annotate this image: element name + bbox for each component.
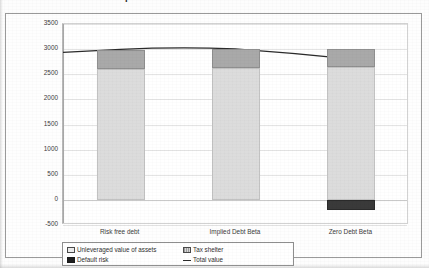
legend-label: Total value (193, 256, 223, 263)
gridline-3500 (63, 24, 407, 25)
y-tick-label-1500: 1500 (6, 120, 63, 127)
page-left-edge-shadow (0, 0, 3, 268)
x-tick-label-1: Implied Debt Beta (185, 228, 285, 235)
y-tick-label-500: 500 (6, 170, 63, 177)
chart-legend: Unleveraged value of assets Default risk… (62, 242, 294, 266)
legend-swatch-icon-tax-shelter (183, 247, 191, 253)
x-tick-label-0: Risk free debt (70, 228, 170, 235)
document-title: Exhibit 11.2 Value of the Op (4, 0, 131, 2)
legend-item-tax-shelter: Tax shelter (183, 245, 223, 254)
legend-swatch-icon-assets (67, 247, 75, 253)
scanned-page: Exhibit 11.2 Value of the Op 35003000250… (0, 0, 429, 268)
legend-label: Unleveraged value of assets (77, 246, 156, 253)
legend-swatch-icon-default-risk (67, 257, 75, 263)
bar-segment-tax-shelter (327, 49, 375, 67)
legend-column-left: Unleveraged value of assets Default risk (67, 245, 156, 265)
bar-segment-default-risk (327, 200, 375, 210)
bar-segment-unleveraged-assets (327, 67, 375, 200)
bar-segment-unleveraged-assets (97, 69, 145, 200)
plot-area (62, 23, 408, 224)
y-tick-label-1000: 1000 (6, 145, 63, 152)
y-tick-label-3000: 3000 (6, 44, 63, 51)
chart-frame: 3500300025002000150010005000-500 Risk fr… (5, 13, 422, 258)
bar-segment-tax-shelter (212, 49, 260, 68)
legend-line-icon-total-value (183, 257, 191, 263)
bar-segment-tax-shelter (97, 50, 145, 70)
y-axis-line (63, 24, 64, 223)
gridline--500 (63, 225, 407, 226)
page-bottom-edge-shadow (0, 264, 429, 268)
legend-item-total-value: Total value (183, 255, 223, 264)
y-tick-label-0: 0 (6, 195, 63, 202)
y-tick-label-2500: 2500 (6, 69, 63, 76)
y-tick-label-2000: 2000 (6, 94, 63, 101)
legend-label: Tax shelter (193, 246, 223, 253)
bar-segment-unleveraged-assets (212, 68, 260, 200)
y-tick-label-3500: 3500 (6, 19, 63, 26)
legend-item-unleveraged-value-of-assets: Unleveraged value of assets (67, 245, 156, 254)
legend-label: Default risk (77, 256, 109, 263)
document-title-strip: Exhibit 11.2 Value of the Op (0, 0, 429, 9)
legend-item-default-risk: Default risk (67, 255, 156, 264)
x-tick-label-2: Zero Debt Beta (300, 228, 400, 235)
legend-column-right: Tax shelter Total value (183, 245, 223, 265)
y-tick-label--500: -500 (6, 220, 63, 227)
